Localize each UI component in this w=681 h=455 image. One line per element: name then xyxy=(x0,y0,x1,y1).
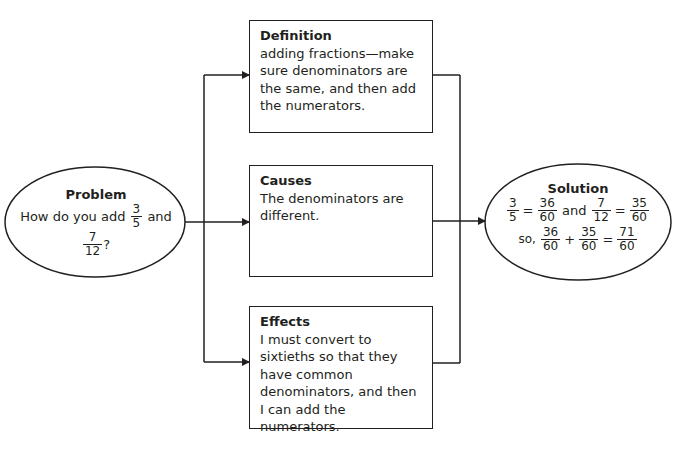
problem-text-after: ? xyxy=(103,237,110,252)
problem-fraction-1: 35 xyxy=(131,203,143,230)
effects-title: Effects xyxy=(260,313,422,331)
effects-box: Effects I must convert to sixtieths so t… xyxy=(249,306,433,429)
solution-line-1: 35=3660 and 712=3560 xyxy=(492,197,664,224)
causes-text: The denominators are different. xyxy=(260,191,404,224)
solution-content: Solution 35=3660 and 712=3560 so, 3660+3… xyxy=(492,180,664,253)
problem-title: Problem xyxy=(8,186,184,203)
definition-title: Definition xyxy=(260,27,422,45)
problem-text-mid: and xyxy=(147,209,171,224)
problem-fraction-2: 712 xyxy=(83,231,102,258)
causes-box: Causes The denominators are different. xyxy=(249,165,433,277)
solution-line-2: so, 3660+3560=7160 xyxy=(492,226,664,253)
definition-text: adding fractions—make sure denominators … xyxy=(260,46,416,114)
definition-box: Definition adding fractions—make sure de… xyxy=(249,20,433,133)
solution-title: Solution xyxy=(492,180,664,197)
problem-text-before: How do you add xyxy=(20,209,125,224)
causes-title: Causes xyxy=(260,172,422,190)
problem-content: Problem How do you add 35 and 712? xyxy=(8,186,184,258)
effects-text: I must convert to sixtieths so that they… xyxy=(260,332,417,435)
